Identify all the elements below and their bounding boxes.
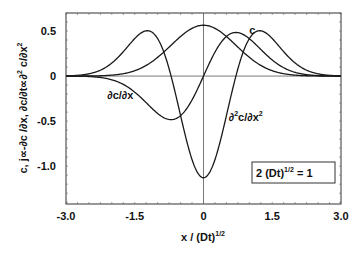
x-axis-title: x / (Dt)1/2 xyxy=(181,230,225,243)
x-tick-label: -3.0 xyxy=(57,210,76,222)
x-tick-label: -1.5 xyxy=(125,210,144,222)
y-tick-label: 0 xyxy=(50,70,56,82)
x-tick-label: 3.0 xyxy=(333,210,348,222)
curve-label-1: ∂c/∂x xyxy=(107,89,134,101)
diffusion-chart: 0.50-0.5-1.0 -3.0-1.501.53.0 c∂c/∂x∂2c/∂… xyxy=(0,0,362,255)
curve-label-0: c xyxy=(249,24,255,36)
x-tick-label: 1.5 xyxy=(265,210,280,222)
y-axis-title: c, j∝-∂c /∂x, ∂c/∂t∝∂2 c/∂x2 xyxy=(16,42,29,173)
y-tick-label: 0.5 xyxy=(41,25,56,37)
y-tick-label: -1.0 xyxy=(37,160,56,172)
y-tick-label: -0.5 xyxy=(37,115,56,127)
x-tick-labels: -3.0-1.501.53.0 xyxy=(57,210,349,222)
y-tick-labels: 0.50-0.5-1.0 xyxy=(37,25,56,172)
x-tick-label: 0 xyxy=(200,210,206,222)
curve-label-2: ∂2c/∂x2 xyxy=(229,110,263,123)
curve-labels: c∂c/∂x∂2c/∂x2 xyxy=(107,24,263,123)
annotation-box: 2 (Dt)1/2 = 1 xyxy=(252,162,335,183)
